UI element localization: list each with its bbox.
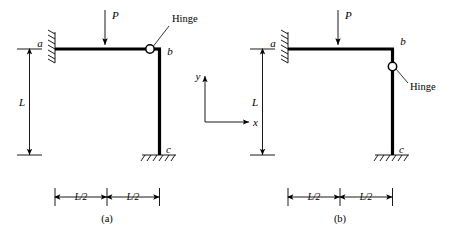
axis-y-label: y <box>195 70 201 82</box>
panel-a-label-half-left: L/2 <box>74 192 88 202</box>
panel-b-dimension-halves <box>288 188 393 206</box>
frame-diagram-svg: a b c P Hinge L L/2 L/2 (a) y x <box>0 0 449 237</box>
panel-b-label-b: b <box>400 35 406 47</box>
panel-b-label-a: a <box>270 37 276 49</box>
panel-a-hinge-leader <box>154 26 170 46</box>
coordinate-axes: y x <box>195 70 258 128</box>
panel-a-label-L: L <box>18 96 25 108</box>
panel-b-label-c: c <box>399 143 404 155</box>
panel-a-hinge-icon <box>146 45 154 53</box>
panel-b-label-load: P <box>344 9 352 21</box>
panel-b-label-half-left: L/2 <box>307 192 321 202</box>
panel-b-label-hinge: Hinge <box>410 81 436 92</box>
panel-a: a b c P Hinge L L/2 L/2 (a) <box>17 9 198 225</box>
panel-a-label-hinge: Hinge <box>172 13 198 24</box>
panel-a-caption: (a) <box>101 213 113 225</box>
panel-b-support-a <box>281 30 288 63</box>
panel-a-label-half-right: L/2 <box>126 192 140 202</box>
panel-a-label-a: a <box>37 37 43 49</box>
panel-b-hinge-icon <box>388 62 396 70</box>
panel-b-support-c <box>374 155 409 161</box>
panel-a-label-c: c <box>166 143 171 155</box>
panel-a-dimension-halves <box>55 188 160 206</box>
panel-a-label-b: b <box>167 45 173 57</box>
panel-b-label-half-right: L/2 <box>359 192 373 202</box>
panel-b-caption: (b) <box>334 213 347 225</box>
panel-a-support-c <box>141 155 176 161</box>
panel-b-label-L: L <box>251 96 258 108</box>
panel-b: a b c P Hinge L L/2 L/2 (b) <box>250 9 436 225</box>
figure-container: a b c P Hinge L L/2 L/2 (a) y x <box>0 0 449 237</box>
panel-a-label-load: P <box>111 9 119 21</box>
panel-b-hinge-leader <box>396 69 408 83</box>
axis-x-label: x <box>252 116 258 128</box>
panel-a-support-a <box>48 30 55 63</box>
